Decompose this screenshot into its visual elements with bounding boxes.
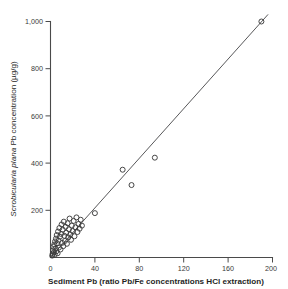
- x-axis-title: Sediment Pb (ratio Pb/Fe concentrations …: [48, 277, 264, 286]
- plot-canvas: 1,000 800 600 400 200 0 40 80 120 160 20…: [0, 0, 288, 289]
- y-axis-tick-labels: 1,000 800 600 400 200 0: [25, 17, 53, 272]
- y-tick-label-1000: 1,000: [25, 17, 43, 26]
- x-tick-label-40: 40: [91, 264, 99, 273]
- data-point: [92, 211, 97, 216]
- y-axis-title-species: Scrobicularia plana: [9, 147, 18, 216]
- x-tick-label-80: 80: [135, 264, 143, 273]
- y-tick-label-400: 400: [31, 159, 43, 168]
- data-point: [120, 167, 125, 172]
- data-point: [152, 155, 157, 160]
- y-tick-label-200: 200: [31, 206, 43, 215]
- y-axis-ticks: [46, 22, 51, 211]
- data-point: [78, 217, 83, 222]
- y-tick-label-600: 600: [31, 112, 43, 121]
- y-tick-label-0: 0: [49, 264, 53, 273]
- x-axis-ticks: [95, 258, 273, 263]
- x-tick-label-120: 120: [178, 264, 190, 273]
- scatter-plot-figure: 1,000 800 600 400 200 0 40 80 120 160 20…: [0, 0, 288, 289]
- y-tick-label-800: 800: [31, 64, 43, 73]
- y-axis-title-measure: Pb concentration (µg/g): [9, 61, 18, 148]
- y-axis-title: Scrobicularia plana Pb concentration (µg…: [9, 61, 18, 217]
- data-point: [129, 183, 134, 188]
- x-tick-label-160: 160: [222, 264, 234, 273]
- x-axis-tick-labels: 40 80 120 160 200: [91, 264, 277, 273]
- x-tick-label-200: 200: [265, 264, 277, 273]
